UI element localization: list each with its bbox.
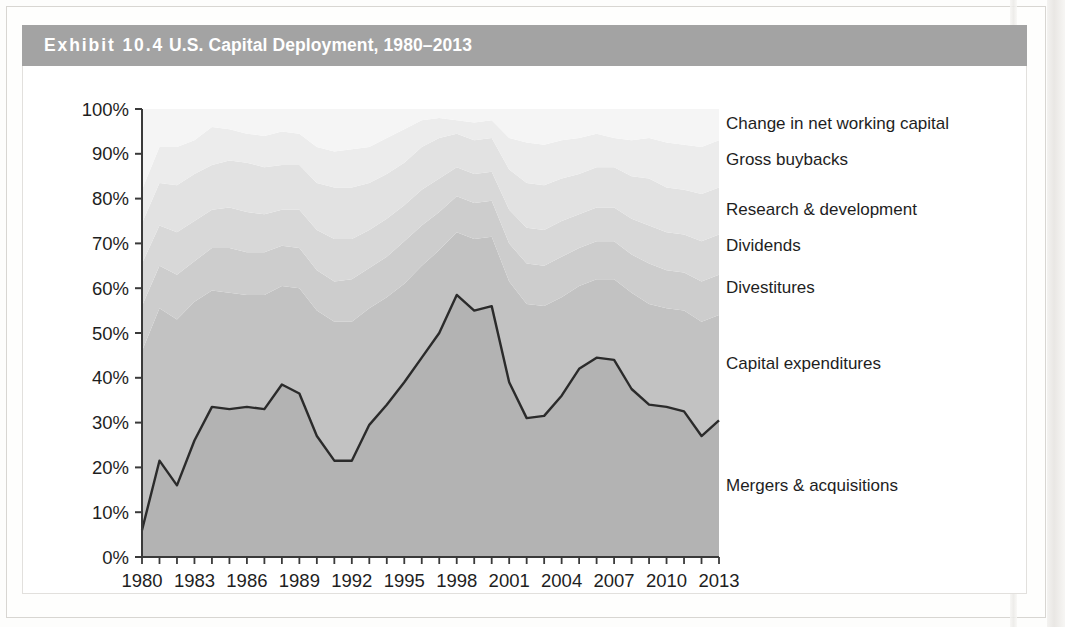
y-tick-label: 60% bbox=[92, 278, 129, 299]
stacked-area-chart: 0%10%20%30%40%50%60%70%80%90%100% 198019… bbox=[23, 66, 1026, 592]
x-tick-label: 2004 bbox=[541, 570, 582, 591]
x-tick-label: 1986 bbox=[226, 570, 267, 591]
chart-areas bbox=[142, 109, 719, 557]
legend-item-5: Capital expenditures bbox=[726, 354, 881, 374]
exhibit-title-bar: Exhibit 10.4 U.S. Capital Deployment, 19… bbox=[22, 25, 1027, 66]
page-background: Exhibit 10.4 U.S. Capital Deployment, 19… bbox=[0, 0, 1065, 627]
x-tick-label: 2007 bbox=[594, 570, 635, 591]
x-tick-label: 2013 bbox=[698, 570, 739, 591]
x-tick-label: 1992 bbox=[331, 570, 372, 591]
y-tick-label: 70% bbox=[92, 233, 129, 254]
x-tick-label: 1998 bbox=[436, 570, 477, 591]
legend-item-6: Mergers & acquisitions bbox=[726, 476, 898, 496]
y-tick-label: 100% bbox=[82, 99, 129, 120]
scan-gutter bbox=[1047, 0, 1065, 627]
y-tick-label: 30% bbox=[92, 412, 129, 433]
x-tick-label: 1980 bbox=[121, 570, 162, 591]
y-tick-label: 90% bbox=[92, 143, 129, 164]
y-tick-label: 40% bbox=[92, 367, 129, 388]
legend-item-2: Research & development bbox=[726, 200, 917, 220]
y-tick-label: 80% bbox=[92, 188, 129, 209]
exhibit-title: Exhibit 10.4 U.S. Capital Deployment, 19… bbox=[22, 35, 472, 56]
legend-item-4: Divestitures bbox=[726, 278, 815, 298]
x-tick-label: 2001 bbox=[489, 570, 530, 591]
legend-item-3: Dividends bbox=[726, 236, 801, 256]
legend-item-1: Gross buybacks bbox=[726, 150, 848, 170]
legend-item-0: Change in net working capital bbox=[726, 114, 949, 134]
exhibit-number: Exhibit 10.4 bbox=[44, 35, 164, 55]
x-axis-tick-labels: 1980198319861989199219951998200120042007… bbox=[121, 570, 739, 591]
x-tick-label: 2010 bbox=[646, 570, 687, 591]
y-axis-tick-labels: 0%10%20%30%40%50%60%70%80%90%100% bbox=[82, 99, 129, 568]
y-tick-label: 10% bbox=[92, 502, 129, 523]
exhibit-title-text: U.S. Capital Deployment, 1980–2013 bbox=[169, 35, 472, 55]
y-tick-label: 50% bbox=[92, 323, 129, 344]
y-tick-label: 0% bbox=[102, 547, 129, 568]
chart-container: 0%10%20%30%40%50%60%70%80%90%100% 198019… bbox=[22, 66, 1027, 594]
x-tick-label: 1995 bbox=[384, 570, 425, 591]
x-tick-label: 1989 bbox=[279, 570, 320, 591]
x-tick-label: 1983 bbox=[174, 570, 215, 591]
y-tick-label: 20% bbox=[92, 457, 129, 478]
